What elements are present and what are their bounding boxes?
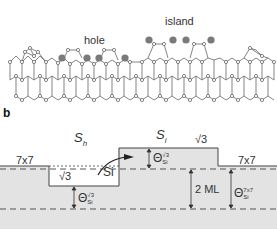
right-7x7-label: 7x7 [238,155,256,166]
theta-7x7-label: Θ7x7Si [234,187,253,200]
panel-label-b: b [3,107,10,119]
lattice-bonds [10,44,274,100]
s-i-label: Si [156,128,166,145]
island-label: island [165,16,194,27]
s-h-label: Sh [74,131,87,148]
island-sqrt3-label: √3 [195,134,207,145]
two-ml-label: 2 ML [195,184,219,195]
hole-sqrt3-label: √3 [59,171,71,182]
left-7x7-label: 7x7 [16,155,34,166]
hole-label: hole [84,35,105,46]
theta-island-label: Θ√3Si [153,152,169,165]
si-label: Si [103,166,114,178]
theta-hole-label: Θ√3Si [78,192,94,205]
